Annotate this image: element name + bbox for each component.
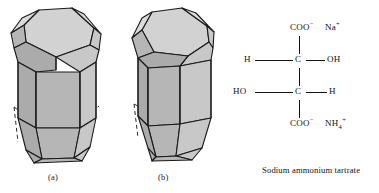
atom-c2: C xyxy=(295,54,301,64)
bond-c3-coo xyxy=(299,100,300,118)
face-prism-right xyxy=(180,60,211,124)
bond-c2-c3 xyxy=(299,68,300,86)
face-prism-left xyxy=(18,62,36,128)
panel-label-a: (a) xyxy=(48,172,58,182)
group-ho-left-c3: HO xyxy=(233,86,247,96)
atom-h-left-c2: H xyxy=(244,54,251,64)
counterion-ammonium: NH4+ xyxy=(325,118,346,128)
group-coo-top: COO− xyxy=(290,22,314,32)
crystal-a-svg: .f-light { fill:#dcdcdc; stroke:#1a1a1a;… xyxy=(4,0,109,170)
bond-c3-h xyxy=(306,92,327,93)
bond-coo-c2 xyxy=(299,36,300,54)
face-prism-right xyxy=(80,62,96,128)
figure-root: .f-light { fill:#dcdcdc; stroke:#1a1a1a;… xyxy=(0,0,379,193)
crystal-b-svg: .g-light { fill:#dcdcdc; stroke:#1a1a1a;… xyxy=(112,0,222,170)
group-oh-c2: OH xyxy=(327,54,341,64)
face-prism-front xyxy=(36,72,80,128)
atom-c3: C xyxy=(295,86,301,96)
crystal-diagram-b: .g-light { fill:#dcdcdc; stroke:#1a1a1a;… xyxy=(112,0,222,174)
crystal-diagram-a: .f-light { fill:#dcdcdc; stroke:#1a1a1a;… xyxy=(4,0,109,174)
face-prism-front xyxy=(148,66,180,126)
bond-h-c2 xyxy=(255,60,293,61)
bond-ho-c3 xyxy=(255,92,293,93)
counterion-sodium: Na+ xyxy=(325,22,340,32)
atom-h-right-c3: H xyxy=(329,86,336,96)
bond-c2-oh xyxy=(306,60,325,61)
panel-label-b: (b) xyxy=(158,172,169,182)
hidden-bottom-far-left xyxy=(14,107,18,142)
chemical-structure: COO− Na+ H C OH HO C H COO− NH4+ xyxy=(228,22,376,142)
group-coo-bottom: COO− xyxy=(290,118,314,128)
hidden-bottom-far-left xyxy=(134,104,138,138)
face-bottom-front xyxy=(36,128,80,159)
face-prism-left xyxy=(138,58,148,126)
structure-caption: Sodium ammonium tartrate xyxy=(262,165,360,175)
